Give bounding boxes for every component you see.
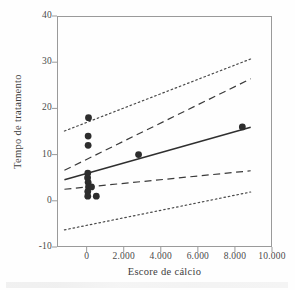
y-axis-ticks [52,16,57,247]
data-point [93,193,100,200]
data-point [239,123,246,130]
x-axis-tick-label: 10.000 [258,251,285,261]
figure-scatter-plot: -10010203040 Tempo de tratamento 02.0004… [0,0,295,290]
data-point [85,133,92,140]
series-line [64,79,250,170]
x-axis-tick-labels: 02.0004.0006.0008.00010.000 [0,251,295,267]
data-point-markers [84,114,246,199]
x-axis-tick-label: 6.000 [187,251,209,261]
x-axis-tick-label: 0 [84,251,89,261]
regression-and-interval-lines [64,59,250,230]
series-line [64,59,250,131]
x-axis-tick-label: 4.000 [150,251,172,261]
data-point [84,193,91,200]
chart-canvas [0,0,295,290]
x-axis-title: Escore de cálcio [57,266,272,277]
x-axis-tick-label: 8.000 [224,251,246,261]
data-point [85,142,92,149]
data-point [135,151,142,158]
page-scan-artifact [6,282,288,288]
data-point [85,114,92,121]
series-line [64,127,250,179]
x-axis-tick-label: 2.000 [113,251,135,261]
series-line [64,192,250,230]
